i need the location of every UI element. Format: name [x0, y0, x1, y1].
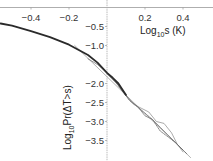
x-tick-label: −0.2 — [60, 12, 79, 23]
y-tick-label: −3.0 — [85, 116, 104, 127]
y-tick-label: −1.0 — [85, 40, 104, 51]
y-tick-label: −2.5 — [85, 97, 104, 108]
y-tick-label: −0.5 — [85, 21, 104, 32]
chart: −0.4−0.20.20.4−0.5−1.0−2.0−2.5−3.0−3.5Lo… — [0, 0, 213, 161]
y-tick-label: −2.0 — [85, 78, 104, 89]
y-tick-label: −3.5 — [85, 135, 104, 146]
y-axis-label: Log10Pr(ΔT>s) — [62, 85, 75, 150]
x-tick-label: 0.4 — [176, 12, 189, 23]
axis-labels: −0.4−0.20.20.4−0.5−1.0−2.0−2.5−3.0−3.5Lo… — [22, 12, 190, 150]
x-axis-label: Log10s (K) — [140, 25, 186, 38]
x-tick-label: 0.2 — [138, 12, 151, 23]
x-tick-label: −0.4 — [22, 12, 41, 23]
